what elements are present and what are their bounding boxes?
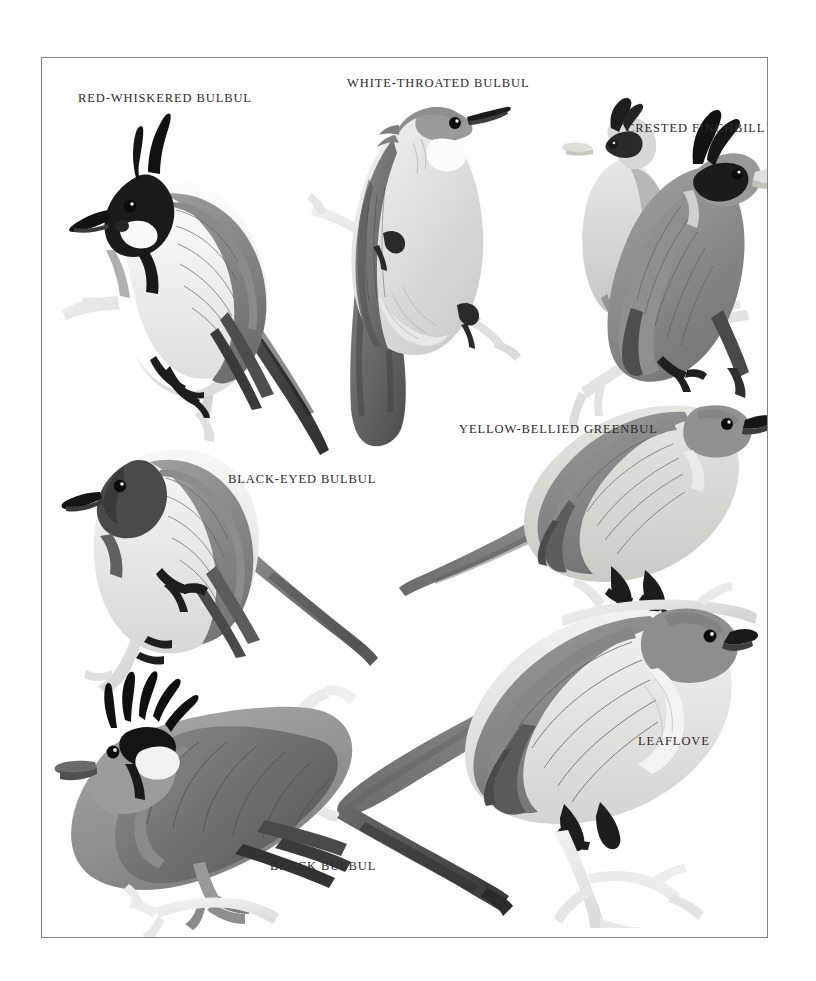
crest-shape (148, 113, 171, 174)
tail-shape (399, 520, 545, 596)
illustration-plate: RED-WHISKERED BULBUL WHITE-THROATED BULB… (41, 57, 768, 938)
eye-shape (704, 630, 717, 643)
cheek-patch (135, 747, 179, 780)
crest-shape (379, 125, 399, 135)
throat-patch (426, 138, 466, 171)
eye-shape (124, 200, 137, 213)
label-crested-finchbill: CRESTED FINCHBILL (626, 121, 765, 136)
label-white-throated-bulbul: WHITE-THROATED BULBUL (347, 76, 529, 91)
eye-shape (449, 117, 461, 129)
crested-finchbill-figure (547, 98, 768, 438)
eye-shape (114, 480, 126, 492)
black-bulbul-figure (47, 658, 527, 933)
whisker-spot (115, 220, 129, 232)
label-black-eyed-bulbul: BLACK-EYED BULBUL (228, 472, 376, 487)
label-black-bulbul: BLACK BULBUL (270, 859, 376, 874)
label-leaflove: LEAFLOVE (638, 734, 710, 749)
eye-shape (107, 746, 120, 759)
label-red-whiskered-bulbul: RED-WHISKERED BULBUL (78, 91, 252, 106)
label-yellow-bellied-greenbul: YELLOW-BELLIED GREENBUL (459, 422, 658, 437)
eye-shape (721, 418, 733, 430)
